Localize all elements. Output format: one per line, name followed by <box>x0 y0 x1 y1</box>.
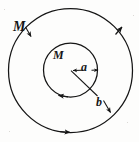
outer-orbit-direction-arrow-bottom <box>60 132 70 133</box>
outer-orbit-circle <box>9 9 133 133</box>
inner-orbit-direction-arrow-bottom <box>59 95 69 97</box>
radius-b-leader-arrow <box>104 101 111 113</box>
outer-mass-leader-arrow <box>26 27 32 37</box>
outer-radius-label: b <box>96 96 102 108</box>
inner-radius-label: a <box>81 61 87 73</box>
inner-mass-label: M <box>53 49 64 61</box>
outer-mass-label: M <box>13 20 25 34</box>
orbit-diagram-figure: M M a b <box>0 0 139 142</box>
